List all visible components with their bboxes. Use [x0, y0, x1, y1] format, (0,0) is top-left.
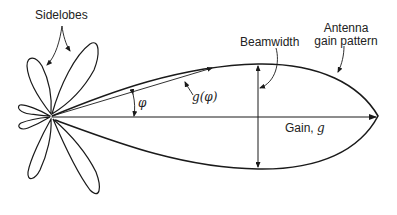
- beamwidth-leader: [260, 48, 277, 88]
- g-phi-label: g(φ): [192, 91, 217, 104]
- gain-axis-label: Gain, g: [285, 122, 325, 135]
- sidelobe-rear-lower: [19, 117, 50, 129]
- phi-label: φ: [138, 97, 146, 110]
- antenna-pattern-leader: [338, 46, 344, 72]
- g-phi-vector-arrow: [52, 68, 212, 116]
- antenna-label-line2: gain pattern: [306, 35, 386, 48]
- sidelobes-leader-right: [62, 26, 70, 51]
- sidelobe-lower-right: [53, 119, 99, 194]
- antenna-gain-pattern-label: Antenna gain pattern: [306, 22, 386, 48]
- sidelobe-upper-right: [52, 43, 98, 114]
- phi-angle-arc: [133, 94, 135, 116]
- sidelobe-upper-left: [27, 58, 51, 114]
- sidelobes-leader-left: [47, 26, 62, 65]
- sidelobes-label: Sidelobes: [35, 9, 88, 22]
- gain-symbol: g: [317, 121, 325, 135]
- gain-prefix: Gain,: [285, 121, 317, 135]
- sidelobe-lower-left: [28, 119, 51, 179]
- beamwidth-label: Beamwidth: [240, 36, 299, 49]
